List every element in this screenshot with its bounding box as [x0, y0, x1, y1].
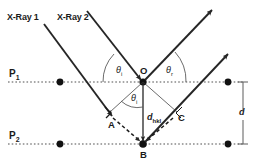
point-a-label: A [108, 120, 115, 130]
xray2-incident-line [87, 11, 141, 80]
xray2-reflected-beam [145, 10, 212, 80]
lattice-plane-p1 [8, 78, 243, 85]
xray2-reflected-line [145, 10, 212, 80]
angle-arc-theta-incident [103, 54, 114, 82]
theta-bragg-label: θi [131, 94, 137, 105]
plane-p1-letter: P [9, 68, 16, 79]
point-o-label: O [140, 66, 147, 76]
xray1-label: X-Ray 1 [7, 13, 39, 22]
point-b-label: B [140, 150, 147, 160]
xray1-incident-line [44, 24, 112, 116]
diagram-canvas [0, 0, 262, 167]
lattice-dot [57, 79, 64, 86]
lattice-dot [57, 141, 64, 148]
dhkl-subscript: hkl [153, 118, 162, 124]
d-spacing-label: d [239, 108, 245, 117]
point-c-label: C [178, 113, 185, 123]
plane-p2-subscript: 2 [16, 136, 20, 143]
construction-line-oc [143, 82, 177, 112]
lattice-plane-p2 [8, 140, 243, 148]
theta-incident-subscript: i [121, 71, 122, 77]
theta-incident-label: θi [116, 66, 122, 77]
theta-reflected-subscript: r [171, 71, 173, 77]
plane-p2-label: P2 [9, 131, 20, 143]
xray2-label: X-Ray 2 [57, 13, 89, 22]
theta-reflected-label: θr [166, 66, 173, 77]
xray1-incident-beam [44, 24, 112, 116]
right-angle-mark-a [105, 107, 111, 118]
theta-bragg-subscript: i [136, 99, 137, 105]
angle-arc-theta-reflected [175, 52, 186, 82]
dashed-segment-ab [113, 118, 140, 141]
dhkl-label: dhkl [147, 113, 161, 124]
lattice-dot [225, 141, 232, 148]
plane-p2-letter: P [9, 130, 16, 141]
lattice-dot [225, 79, 232, 86]
xray2-incident-beam [87, 11, 141, 80]
bragg-diffraction-diagram: X-Ray 1 X-Ray 2 P1 P2 O A B C θi θr θi d… [0, 0, 262, 167]
plane-p1-label: P1 [9, 69, 20, 81]
plane-p1-subscript: 1 [16, 74, 20, 81]
